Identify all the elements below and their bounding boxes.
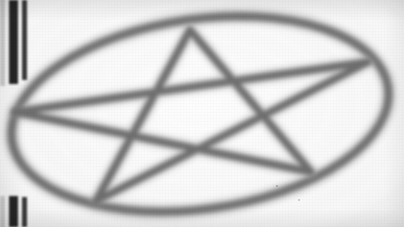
binding-bar-thick-bottom xyxy=(9,196,18,227)
binding-bar-thin-top xyxy=(22,0,27,80)
scan-speck xyxy=(298,199,300,201)
binding-bar-thick-top xyxy=(9,0,18,84)
drawing-canvas xyxy=(0,0,404,227)
binding-margin-shade-bottom xyxy=(0,196,5,227)
binding-bar-thin-bottom xyxy=(22,197,27,227)
binding-margin-shade xyxy=(0,0,5,86)
scan-speck xyxy=(343,154,345,156)
screenshot-stage: Pentagram inscribed in ellipse scanned h… xyxy=(0,0,404,227)
scan-speck xyxy=(276,185,278,187)
